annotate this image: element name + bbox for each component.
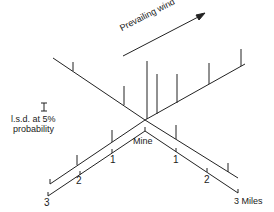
lsd-bar-icon	[41, 103, 47, 111]
tick-label-left-3: 3	[44, 198, 50, 208]
tick-label-right-1: 1	[173, 155, 179, 165]
arm-lower-right	[145, 120, 238, 178]
arm-upper-left	[53, 58, 145, 120]
tick-label-right-2: 2	[204, 175, 210, 185]
tick-label-left-1: 1	[110, 155, 116, 165]
arm-lower-left	[50, 120, 145, 184]
diagram-canvas	[0, 0, 274, 212]
legend-line-1: l.s.d. at 5%	[11, 114, 56, 124]
tick-label-right-3: 3 Miles	[234, 196, 263, 206]
mine-label: Mine	[133, 136, 153, 146]
distance-axis-left	[48, 131, 145, 196]
legend-line-2: probability	[13, 124, 54, 134]
distance-axis-right	[145, 131, 238, 193]
wind-arrow-head	[196, 13, 205, 20]
tick-label-left-2: 2	[76, 176, 82, 186]
arm-upper-right	[145, 64, 245, 120]
